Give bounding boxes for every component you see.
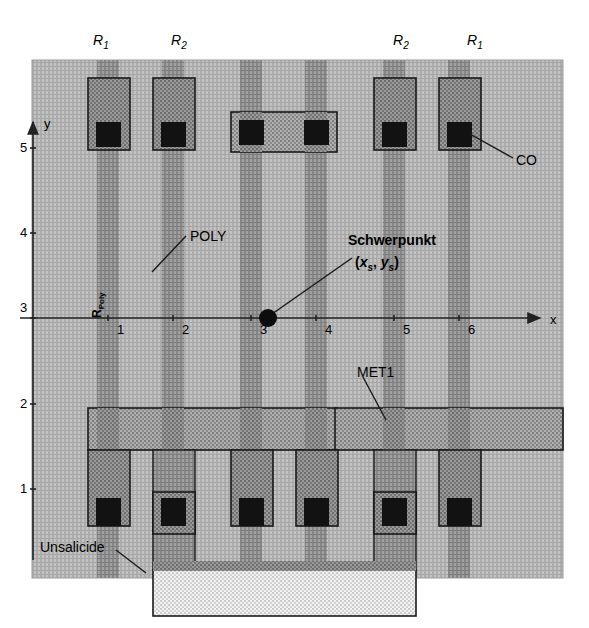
contact-bottom-3 (239, 498, 264, 526)
contact-top-5 (382, 122, 407, 147)
contact-top-3 (239, 120, 264, 145)
rpoly-label: RPoly (90, 292, 106, 318)
y-tick-label-1: 1 (20, 481, 27, 496)
unsalicide-label: Unsalicide (40, 539, 105, 555)
x-tick-label-4: 4 (325, 322, 332, 337)
contact-bottom-4 (304, 498, 329, 526)
x-tick-label-1: 1 (117, 322, 124, 337)
x-tick-label-2: 2 (182, 322, 189, 337)
x-tick-label-5: 5 (403, 322, 410, 337)
resistor-label-r1-right: R1 (467, 32, 483, 51)
contact-top-4 (304, 120, 329, 145)
contact-top-2 (161, 122, 186, 147)
unsalicide-region (153, 570, 416, 616)
contact-bottom-6 (447, 498, 472, 526)
contact-top-6 (447, 122, 472, 147)
contact-top-1 (96, 122, 121, 147)
y-tick-label-5: 5 (20, 140, 27, 155)
contact-bottom-2 (161, 498, 186, 526)
unsalicide-top-strap (153, 561, 416, 571)
y-axis-name: y (44, 116, 51, 131)
contact-bottom-5 (382, 498, 407, 526)
x-axis-name: x (550, 312, 557, 327)
x-tick-label-6: 6 (468, 322, 475, 337)
resistor-label-r2-right: R2 (393, 32, 409, 51)
resistor-label-r2-left: R2 (171, 32, 187, 51)
y-tick-label-3: 3 (20, 300, 27, 315)
resistor-label-r1-left: R1 (93, 32, 109, 51)
co-label: CO (516, 152, 537, 168)
y-tick-label-4: 4 (20, 225, 27, 240)
x-tick-label-3: 3 (260, 322, 267, 337)
centroid-title: Schwerpunkt (348, 232, 436, 248)
met1-label: MET1 (357, 364, 394, 380)
y-tick-label-2: 2 (20, 396, 27, 411)
contact-bottom-1 (96, 498, 121, 526)
centroid-coordinates: (xs, ys) (355, 254, 399, 273)
ic-layout-canvas (0, 0, 589, 628)
met1-bus-left (88, 408, 337, 450)
poly-label: POLY (190, 228, 226, 244)
